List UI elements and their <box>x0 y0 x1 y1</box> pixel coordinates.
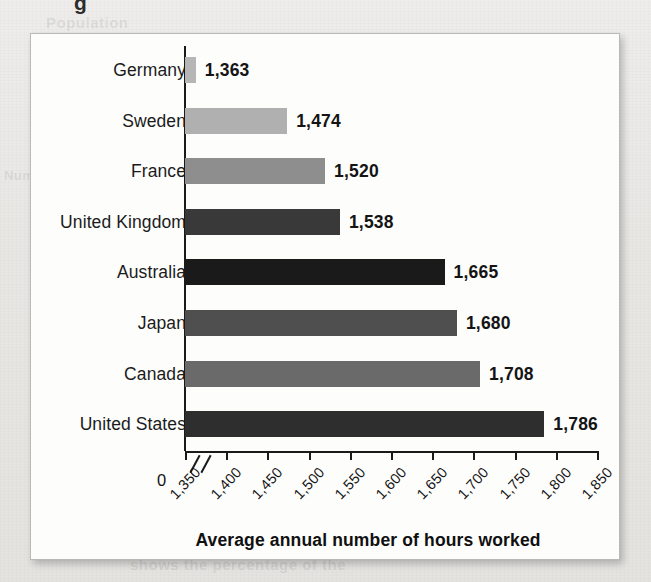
x-axis-tick <box>515 451 517 460</box>
bar-category-label: Australia <box>117 262 186 283</box>
bar-value-label: 1,363 <box>205 60 250 81</box>
bar-row: Japan1,680 <box>31 299 619 347</box>
bar-category-label: Canada <box>124 363 186 384</box>
x-axis-tick <box>432 451 434 460</box>
bar-row: United Kingdom1,538 <box>31 198 619 246</box>
bar <box>185 411 544 437</box>
bar-row: Sweden1,474 <box>31 97 619 145</box>
x-axis-tick-label: 1,500 <box>290 464 327 502</box>
x-axis-tick <box>597 451 599 460</box>
x-axis-tick-label: 1,800 <box>537 464 574 502</box>
bar-chart-plot-area: 0 Germany1,363Sweden1,474France1,520Unit… <box>31 34 619 559</box>
bar-row: United States1,786 <box>31 400 619 448</box>
x-axis-tick-label: 1,650 <box>414 464 451 502</box>
x-axis-tick <box>391 451 393 460</box>
chart-panel: 0 Germany1,363Sweden1,474France1,520Unit… <box>30 33 620 560</box>
x-axis-tick-label: 1,850 <box>579 464 616 502</box>
bar-row: France1,520 <box>31 147 619 195</box>
bar <box>185 259 445 285</box>
bar-value-label: 1,538 <box>349 211 394 232</box>
x-axis-tick-label: 1,600 <box>373 464 410 502</box>
x-axis-tick-label: 1,750 <box>496 464 533 502</box>
x-axis-title-text: Average annual number of hours worked <box>109 530 540 550</box>
bar <box>185 57 196 83</box>
bar <box>185 209 340 235</box>
bar-row: Canada1,708 <box>31 350 619 398</box>
bar <box>185 158 325 184</box>
axis-origin-label: 0 <box>157 471 166 490</box>
x-axis-tick <box>185 451 187 460</box>
x-axis-tick <box>350 451 352 460</box>
bar-category-label: United States <box>80 414 186 435</box>
x-axis-tick <box>556 451 558 460</box>
x-axis-tick <box>309 451 311 460</box>
bar-value-label: 1,474 <box>296 110 341 131</box>
x-axis-tick-label: 1,350 <box>167 464 204 502</box>
bar-value-label: 1,520 <box>334 161 379 182</box>
x-axis-tick-label: 1,700 <box>455 464 492 502</box>
x-axis-title: Average annual number of hours worked <box>31 530 619 551</box>
x-axis-tick-label: 1,450 <box>249 464 286 502</box>
bar-category-label: Germany <box>113 60 186 81</box>
caption-descender-fragment: g <box>74 0 87 15</box>
bar-row: Germany1,363 <box>31 46 619 94</box>
x-axis-tick <box>267 451 269 460</box>
bar-category-label: Japan <box>138 313 186 334</box>
bar-category-label: Sweden <box>122 110 186 131</box>
bar <box>185 108 287 134</box>
bar-value-label: 1,665 <box>454 262 499 283</box>
bar <box>185 310 457 336</box>
bar-category-label: France <box>131 161 186 182</box>
bar-row: Australia1,665 <box>31 248 619 296</box>
bar-value-label: 1,680 <box>466 313 511 334</box>
bar-value-label: 1,786 <box>553 414 598 435</box>
ghost-text-top: Population <box>46 14 129 31</box>
bar-value-label: 1,708 <box>489 363 534 384</box>
x-axis-tick <box>226 451 228 460</box>
x-axis-tick-label: 1,550 <box>331 464 368 502</box>
x-axis-tick <box>473 451 475 460</box>
bar-category-label: United Kingdom <box>60 211 186 232</box>
bar <box>185 361 480 387</box>
